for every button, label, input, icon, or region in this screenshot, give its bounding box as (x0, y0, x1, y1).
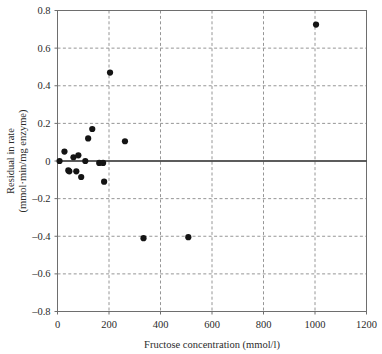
data-point (100, 160, 106, 166)
data-point (56, 158, 62, 164)
data-point (122, 138, 128, 144)
data-point (85, 135, 91, 141)
y-tick-label: –0.2 (31, 193, 50, 204)
data-point (73, 168, 79, 174)
y-tick-label: 0.2 (37, 118, 50, 129)
x-tick-label: 0 (55, 319, 60, 330)
x-tick-label: 400 (153, 319, 169, 330)
data-point (89, 126, 95, 132)
y-axis-title-line1: Residual in rate (5, 128, 16, 194)
residual-scatter-chart: 020040060080010001200 –0.8–0.6–0.4–0.200… (0, 0, 382, 354)
data-point (185, 234, 191, 240)
data-point (313, 22, 319, 28)
y-tick-label: –0.6 (31, 268, 50, 279)
data-point (140, 235, 146, 241)
y-tick-label: –0.8 (31, 306, 50, 317)
x-tick-label: 600 (204, 319, 220, 330)
y-axis-title-line2: (mmol·min/mg enzyme) (17, 109, 29, 212)
data-point (107, 69, 113, 75)
x-tick-label: 1000 (305, 319, 326, 330)
data-point (78, 174, 84, 180)
x-tick-label: 1200 (356, 319, 377, 330)
y-tick-label: 0 (45, 156, 50, 167)
data-point (75, 152, 81, 158)
y-tick-label: 0.6 (37, 43, 50, 54)
y-tick-label: 0.8 (37, 5, 50, 16)
data-point (66, 168, 72, 174)
x-tick-label: 200 (101, 319, 117, 330)
data-point (61, 148, 67, 154)
data-point (82, 158, 88, 164)
x-axis-title: Fructose concentration (mmol/l) (144, 339, 280, 351)
data-point (101, 179, 107, 185)
y-tick-label: 0.4 (37, 80, 51, 91)
x-tick-label: 800 (256, 319, 272, 330)
y-tick-label: –0.4 (31, 231, 51, 242)
